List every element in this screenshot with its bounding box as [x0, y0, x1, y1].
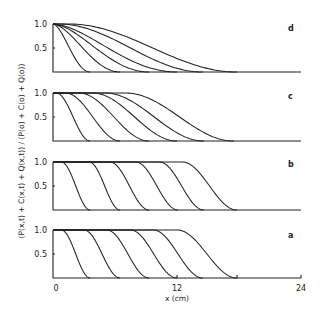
panel-b-curve-2 [53, 162, 120, 210]
panel-b-letter: b [288, 160, 294, 169]
y-axis-label: (P(x,t) + C(x,t) + Q(x,t)) / (P(o) + C(o… [17, 64, 26, 239]
panel-b-ytick-05: 0.5 [34, 182, 47, 191]
panel-c-ytick-1: 1.0 [34, 89, 47, 98]
panel-c-ytick-05: 0.5 [34, 113, 47, 122]
panel-a-curve-4 [53, 230, 177, 278]
panel-b-curves [53, 162, 237, 210]
panel-b-axes [53, 162, 301, 210]
panel-a-curve-2 [53, 230, 120, 278]
panel-d-curve-5 [53, 24, 203, 72]
panel-b: 1.0 0.5 b [34, 158, 301, 210]
panel-a-curve-3 [53, 230, 149, 278]
x-axis-label: x (cm) [165, 294, 189, 303]
x-tick-0: 0 [53, 284, 58, 293]
panel-a-curve-1 [53, 230, 90, 278]
panel-a-ytick-05: 0.5 [34, 250, 47, 259]
panel-d-ytick-1: 1.0 [34, 20, 47, 29]
panel-c-curve-5 [53, 93, 204, 141]
panel-c-curve-1 [53, 93, 90, 141]
panel-c-axes [53, 93, 301, 141]
panel-d-ytick-05: 0.5 [34, 44, 47, 53]
panel-a-ytick-1: 1.0 [34, 226, 47, 235]
panel-d: 1.0 0.5 d [34, 20, 301, 72]
panel-c-curves [53, 93, 234, 141]
x-tick-12: 12 [172, 284, 182, 293]
panel-d-curves [53, 24, 237, 72]
panel-c-letter: c [288, 92, 293, 101]
panel-b-curve-6 [53, 162, 237, 210]
panel-b-ytick-1: 1.0 [34, 158, 47, 167]
panel-a-letter: a [288, 231, 293, 240]
panel-b-curve-4 [53, 162, 178, 210]
panel-a-curves [53, 230, 237, 278]
panel-a: 1.0 0.5 a [34, 226, 301, 278]
panel-c-curve-2 [53, 93, 120, 141]
panel-d-curve-6 [53, 24, 237, 72]
panel-c: 1.0 0.5 c [34, 89, 301, 141]
panel-b-curve-3 [53, 162, 149, 210]
panel-a-curve-6 [53, 230, 237, 278]
panel-b-curve-1 [53, 162, 90, 210]
panel-d-axes [53, 24, 301, 72]
panel-a-axes [53, 230, 301, 278]
x-tick-24: 24 [296, 284, 306, 293]
panel-c-curve-4 [53, 93, 177, 141]
panel-c-curve-6 [53, 93, 234, 141]
panel-d-letter: d [288, 24, 294, 33]
figure: 1.0 0.5 d 1.0 0.5 c 1.0 0.5 b 1.0 0.5 a … [0, 0, 320, 320]
